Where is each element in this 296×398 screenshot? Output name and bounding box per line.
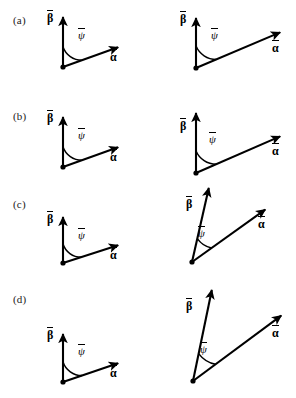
- row-label-d: (d): [13, 293, 26, 305]
- glyph-alpha-label-a-right: α: [272, 42, 279, 54]
- glyph-beta-label-a-left: β: [47, 12, 53, 24]
- glyph-alpha-label-b-left: α: [110, 151, 117, 163]
- beta-label-c-right: β: [186, 196, 192, 210]
- glyph-alpha-label-a-left: α: [110, 51, 117, 63]
- glyph-alpha-label-d-left: α: [110, 367, 117, 379]
- psi-label-b-left: ψ: [78, 128, 85, 141]
- alpha-label-c-left: α: [110, 247, 117, 261]
- beta-label-a-left: β: [47, 10, 53, 24]
- vector-diagram-a-right: [193, 18, 280, 71]
- glyph-beta-label-c-right: β: [186, 198, 192, 210]
- beta-label-d-right: β: [186, 298, 192, 312]
- angle-arc-b-left: [63, 147, 82, 160]
- alpha-vector-a-right: [196, 32, 280, 68]
- psi-label-a-left: ψ: [78, 28, 85, 41]
- beta-label-b-left: β: [47, 110, 53, 124]
- psi-label-c-left: ψ: [78, 228, 85, 241]
- origin-dot-b-left: [60, 164, 65, 169]
- alpha-label-a-left: α: [110, 49, 117, 63]
- glyph-beta-label-a-right: β: [180, 13, 186, 25]
- alpha-label-a-right: α: [272, 40, 279, 54]
- glyph-psi-label-c-right: ψ: [198, 228, 205, 239]
- glyph-beta-label-b-right: β: [180, 120, 186, 132]
- psi-label-c-right: ψ: [198, 226, 205, 239]
- psi-label-d-right: ψ: [200, 342, 207, 355]
- angle-arc-a-right: [196, 46, 216, 59]
- psi-label-a-right: ψ: [211, 28, 218, 41]
- row-label-c: (c): [13, 198, 26, 210]
- angle-arc-c-left: [63, 244, 81, 257]
- vector-diagram-d-right: [190, 290, 281, 384]
- alpha-label-d-left: α: [110, 365, 117, 379]
- psi-label-d-left: ψ: [78, 344, 85, 357]
- alpha-label-c-right: α: [258, 216, 265, 230]
- angle-arc-b-right: [196, 151, 216, 164]
- glyph-psi-label-a-left: ψ: [78, 30, 85, 41]
- origin-dot-c-left: [60, 260, 65, 265]
- vector-diagram-b-right: [193, 113, 280, 176]
- glyph-beta-label-c-left: β: [47, 213, 53, 225]
- glyph-psi-label-d-left: ψ: [78, 346, 85, 357]
- origin-dot-d-right: [190, 378, 195, 383]
- psi-label-b-right: ψ: [209, 132, 216, 145]
- glyph-beta-label-d-left: β: [47, 329, 53, 341]
- glyph-psi-label-c-left: ψ: [78, 230, 85, 241]
- alpha-label-d-right: α: [272, 325, 279, 339]
- origin-dot-a-right: [193, 65, 198, 70]
- vector-angle-figure: (a)βαψβαψ(b)βαψβαψ(c)βαψβαψ(d)βαψβαψ: [0, 0, 296, 398]
- angle-arc-d-right: [199, 354, 216, 365]
- glyph-alpha-label-c-left: α: [110, 249, 117, 261]
- glyph-beta-label-d-right: β: [186, 300, 192, 312]
- angle-arc-c-right: [197, 239, 211, 248]
- row-label-b: (b): [13, 110, 26, 122]
- origin-dot-a-left: [60, 64, 65, 69]
- beta-vector-d-right: [193, 290, 212, 381]
- angle-arc-d-left: [63, 362, 82, 376]
- vector-canvas: [0, 0, 296, 398]
- glyph-alpha-label-b-right: α: [272, 145, 279, 157]
- glyph-alpha-label-c-right: α: [258, 218, 265, 230]
- glyph-beta-label-b-left: β: [47, 112, 53, 124]
- origin-dot-c-right: [189, 259, 194, 264]
- glyph-psi-label-b-right: ψ: [209, 134, 216, 145]
- alpha-label-b-left: α: [110, 149, 117, 163]
- glyph-psi-label-d-right: ψ: [200, 344, 207, 355]
- row-label-a: (a): [13, 14, 26, 26]
- beta-label-c-left: β: [47, 211, 53, 225]
- beta-label-d-left: β: [47, 327, 53, 341]
- glyph-alpha-label-d-right: α: [272, 327, 279, 339]
- origin-dot-d-left: [60, 379, 65, 384]
- angle-arc-a-left: [63, 47, 82, 60]
- glyph-psi-label-b-left: ψ: [78, 130, 85, 141]
- beta-label-a-right: β: [180, 11, 186, 25]
- glyph-psi-label-a-right: ψ: [211, 30, 218, 41]
- alpha-label-b-right: α: [272, 143, 279, 157]
- origin-dot-b-right: [193, 170, 198, 175]
- beta-label-b-right: β: [180, 118, 186, 132]
